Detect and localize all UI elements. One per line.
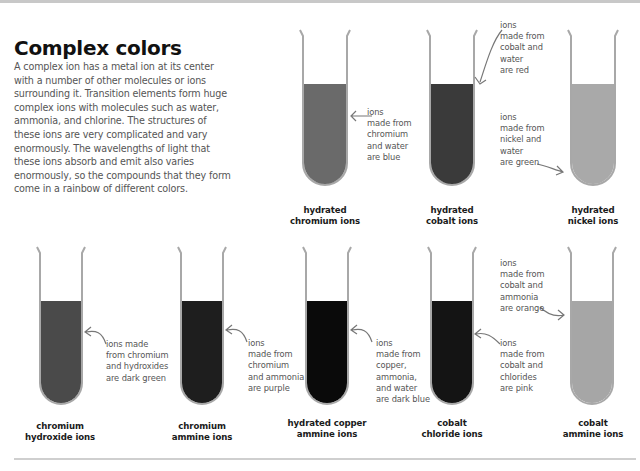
bottom-divider [14,458,636,460]
note-chromium-hydroxide: ions made from chromium and hydroxides a… [106,339,169,384]
label-copper-ammine: hydrated copper ammine ions [267,418,387,440]
page-title: Complex colors [14,36,182,60]
solution-fill [304,84,346,184]
solution-fill [431,84,473,184]
note-hydrated-chromium: ions made from chromium and water are bl… [367,107,412,163]
label-cobalt-ammine: cobalt ammine ions [533,418,640,440]
label-hydrated-cobalt: hydrated cobalt ions [392,205,512,227]
note-hydrated-cobalt: ions made from cobalt and water are red [500,20,545,76]
label-chromium-hydroxide: chromium hydroxide ions [0,421,120,443]
intro-paragraph: A complex ion has a metal ion at its cen… [14,60,234,196]
label-hydrated-nickel: hydrated nickel ions [533,205,640,227]
note-copper-ammine: ions made from copper, ammonia, and wate… [376,338,430,405]
test-tube-cobalt-chloride [425,243,479,411]
solution-fill [572,301,612,403]
arrow-icon [223,322,251,346]
solution-fill [307,301,347,403]
label-hydrated-chromium: hydrated chromium ions [265,205,385,227]
note-cobalt-ammine: ions made from cobalt and ammonia are or… [500,258,545,314]
arrow-icon [348,322,376,346]
solution-fill [41,301,81,403]
note-chromium-ammine: ions made from chromium and ammonia are … [248,338,304,394]
top-divider [0,0,640,3]
arrow-icon [472,326,502,348]
test-tube-copper-ammine [300,243,354,411]
note-hydrated-nickel: ions made from nickel and water are gree… [500,112,545,168]
label-chromium-ammine: chromium ammine ions [142,421,262,443]
test-tube-hydrated-chromium [297,26,353,192]
test-tube-cobalt-ammine [565,243,619,411]
solution-fill [182,301,222,403]
test-tube-hydrated-nickel [565,26,621,192]
note-cobalt-chloride: ions made from cobalt and chlorides are … [500,338,545,394]
test-tube-chromium-hydroxide [34,243,88,411]
solution-fill [572,84,614,184]
solution-fill [432,301,472,403]
label-cobalt-chloride: cobalt chloride ions [392,418,512,440]
test-tube-chromium-ammine [175,243,229,411]
